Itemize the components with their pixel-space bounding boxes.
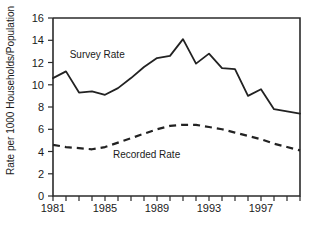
y-tick-label: 2 — [38, 168, 44, 180]
plot-frame — [53, 18, 300, 196]
y-tick-label: 14 — [32, 34, 44, 46]
series-annotation-recorded-rate: Recorded Rate — [113, 149, 181, 160]
series-line-recorded-rate — [53, 125, 300, 151]
y-axis-tick-labels: 0 2 4 6 8 10 12 14 16 — [32, 12, 44, 202]
y-tick-label: 10 — [32, 79, 44, 91]
x-axis-tick-labels: 1981 1985 1989 1993 1997 — [41, 202, 273, 214]
y-tick-label: 0 — [38, 190, 44, 202]
x-tick-label: 1997 — [249, 202, 273, 214]
y-tick-label: 6 — [38, 123, 44, 135]
series-annotation-survey-rate: Survey Rate — [70, 49, 125, 60]
y-tick-label: 4 — [38, 146, 44, 158]
y-tick-label: 12 — [32, 57, 44, 69]
chart-figure: Rate per 1000 Households/Population 0 2 … — [0, 0, 315, 228]
x-tick-label: 1989 — [145, 202, 169, 214]
x-tick-label: 1985 — [93, 202, 117, 214]
y-tick-label: 16 — [32, 12, 44, 24]
line-chart: Rate per 1000 Households/Population 0 2 … — [0, 0, 315, 228]
y-tick-label: 8 — [38, 101, 44, 113]
x-tick-label: 1981 — [41, 202, 65, 214]
x-tick-label: 1993 — [197, 202, 221, 214]
axis-spines — [53, 18, 300, 196]
y-axis-title: Rate per 1000 Households/Population — [5, 6, 16, 175]
